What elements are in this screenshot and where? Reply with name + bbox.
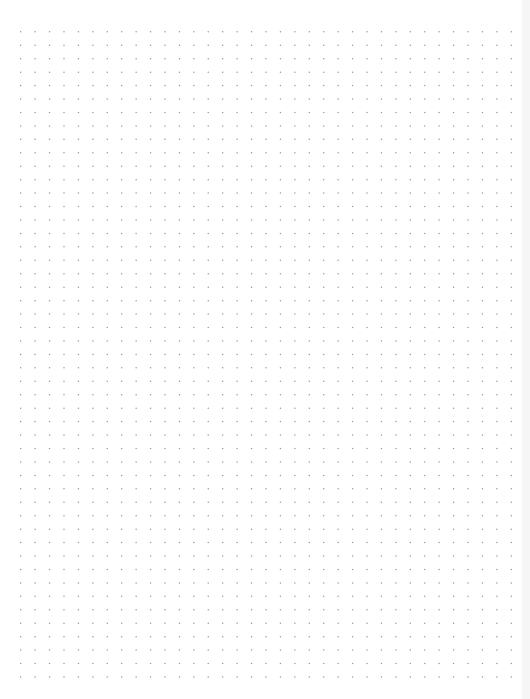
grid-dot xyxy=(438,31,440,33)
grid-dot xyxy=(294,488,296,490)
grid-dot xyxy=(309,286,311,288)
grid-dot xyxy=(34,663,36,665)
grid-dot xyxy=(410,260,412,262)
grid-dot xyxy=(309,381,311,383)
grid-dot xyxy=(179,206,181,208)
grid-dot xyxy=(309,542,311,544)
grid-dot xyxy=(222,206,224,208)
grid-dot xyxy=(366,85,368,87)
grid-dot xyxy=(78,515,80,517)
grid-dot xyxy=(222,44,224,46)
grid-dot xyxy=(453,85,455,87)
grid-dot xyxy=(511,461,513,463)
grid-dot xyxy=(251,125,253,127)
grid-dot xyxy=(150,488,152,490)
grid-dot xyxy=(208,31,210,33)
grid-dot xyxy=(467,569,469,571)
grid-dot xyxy=(265,165,267,167)
grid-dot xyxy=(309,528,311,530)
grid-dot xyxy=(78,475,80,477)
grid-dot xyxy=(164,85,166,87)
grid-dot xyxy=(236,260,238,262)
grid-dot xyxy=(323,354,325,356)
grid-dot xyxy=(410,327,412,329)
grid-dot xyxy=(164,219,166,221)
grid-dot xyxy=(294,555,296,557)
grid-dot xyxy=(280,246,282,248)
grid-dot xyxy=(467,71,469,73)
grid-dot xyxy=(280,260,282,262)
grid-dot xyxy=(482,313,484,315)
grid-dot xyxy=(164,649,166,651)
grid-dot xyxy=(265,300,267,302)
grid-dot xyxy=(63,663,65,665)
grid-dot xyxy=(135,381,137,383)
grid-dot xyxy=(179,367,181,369)
grid-dot xyxy=(280,340,282,342)
grid-dot xyxy=(438,340,440,342)
grid-dot xyxy=(410,461,412,463)
grid-dot xyxy=(337,313,339,315)
grid-dot xyxy=(381,542,383,544)
grid-dot xyxy=(49,582,51,584)
grid-dot xyxy=(150,300,152,302)
grid-dot xyxy=(193,340,195,342)
grid-dot xyxy=(309,676,311,678)
grid-dot xyxy=(78,98,80,100)
grid-dot xyxy=(251,407,253,409)
grid-dot xyxy=(410,85,412,87)
grid-dot xyxy=(92,569,94,571)
grid-dot xyxy=(337,31,339,33)
grid-dot xyxy=(265,139,267,141)
grid-dot xyxy=(193,219,195,221)
grid-dot xyxy=(381,192,383,194)
grid-dot xyxy=(395,649,397,651)
grid-dot xyxy=(164,542,166,544)
grid-dot xyxy=(208,139,210,141)
grid-dot xyxy=(395,434,397,436)
grid-dot xyxy=(107,663,109,665)
grid-dot xyxy=(63,44,65,46)
grid-dot xyxy=(511,367,513,369)
grid-dot xyxy=(265,340,267,342)
grid-dot xyxy=(511,340,513,342)
grid-dot xyxy=(222,340,224,342)
grid-dot xyxy=(34,286,36,288)
grid-dot xyxy=(496,475,498,477)
grid-dot xyxy=(236,448,238,450)
grid-dot xyxy=(280,663,282,665)
grid-dot xyxy=(366,58,368,60)
grid-dot xyxy=(222,609,224,611)
grid-dot xyxy=(63,555,65,557)
grid-dot xyxy=(309,125,311,127)
grid-dot xyxy=(309,461,311,463)
grid-dot xyxy=(280,152,282,154)
grid-dot xyxy=(63,71,65,73)
grid-dot xyxy=(424,286,426,288)
grid-dot xyxy=(265,367,267,369)
grid-dot xyxy=(121,85,123,87)
grid-dot xyxy=(438,233,440,235)
grid-dot xyxy=(49,528,51,530)
grid-dot xyxy=(280,421,282,423)
grid-dot xyxy=(467,58,469,60)
grid-dot xyxy=(121,58,123,60)
grid-dot xyxy=(381,528,383,530)
grid-dot xyxy=(222,448,224,450)
grid-dot xyxy=(438,152,440,154)
grid-dot xyxy=(323,85,325,87)
grid-dot xyxy=(63,461,65,463)
grid-dot xyxy=(251,448,253,450)
grid-dot xyxy=(236,528,238,530)
grid-dot xyxy=(395,475,397,477)
grid-dot xyxy=(337,58,339,60)
grid-dot xyxy=(193,260,195,262)
grid-dot xyxy=(265,609,267,611)
grid-dot xyxy=(496,381,498,383)
grid-dot xyxy=(352,152,354,154)
grid-dot xyxy=(222,273,224,275)
grid-dot xyxy=(208,421,210,423)
grid-dot xyxy=(352,367,354,369)
grid-dot xyxy=(337,327,339,329)
grid-dot xyxy=(222,461,224,463)
